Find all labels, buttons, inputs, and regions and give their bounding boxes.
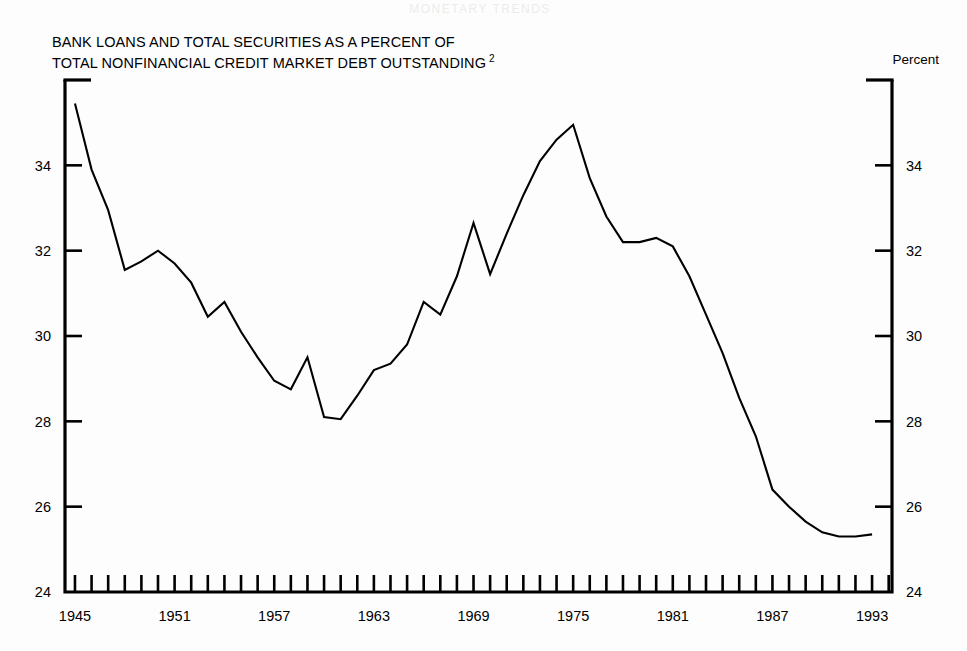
y-axis-tick-label-left: 26 — [35, 499, 51, 515]
chart-plot-area: 242628303234 242628303234 19451951195719… — [0, 0, 967, 651]
y-axis-tick-label-right: 24 — [906, 584, 922, 600]
chart-axes — [63, 80, 893, 592]
y-axis-tick-label-right: 26 — [906, 499, 922, 515]
x-axis-tick-label: 1969 — [457, 608, 489, 624]
y-axis-tick-label-left: 34 — [35, 158, 51, 174]
x-axis-tick-label: 1963 — [358, 608, 390, 624]
y-axis-tick-label-left: 28 — [35, 414, 51, 430]
y-axis-tick-label-left: 24 — [35, 584, 51, 600]
x-axis-tick-label: 1957 — [258, 608, 290, 624]
x-axis-labels: 194519511957196319691975198119871993 — [59, 608, 888, 624]
x-axis-tick-label: 1993 — [856, 608, 888, 624]
data-series-line — [75, 103, 872, 536]
y-axis-labels-right: 242628303234 — [906, 158, 922, 601]
y-axis-tick-label-left: 30 — [35, 328, 51, 344]
y-axis-tick-label-right: 32 — [906, 243, 922, 259]
x-axis-tick-label: 1981 — [657, 608, 689, 624]
y-axis-tick-label-right: 28 — [906, 414, 922, 430]
y-axis-tick-label-left: 32 — [35, 243, 51, 259]
chart-tick-marks — [65, 165, 892, 592]
x-axis-tick-label: 1987 — [756, 608, 788, 624]
chart-figure: MONETARY TRENDS BANK LOANS AND TOTAL SEC… — [0, 0, 967, 651]
x-axis-tick-label: 1951 — [158, 608, 190, 624]
y-axis-labels-left: 242628303234 — [35, 158, 51, 601]
y-axis-tick-label-right: 30 — [906, 328, 922, 344]
x-axis-tick-label: 1945 — [59, 608, 91, 624]
data-series-group — [75, 103, 872, 536]
y-axis-tick-label-right: 34 — [906, 158, 922, 174]
x-axis-tick-label: 1975 — [557, 608, 589, 624]
